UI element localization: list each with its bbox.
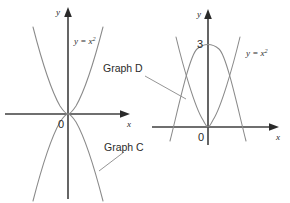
left-equation-label: y = x2 [73,35,96,46]
graph-d-leader-line [145,76,186,99]
left-equation-exponent: 2 [93,35,96,42]
right-equation-base: y = x [245,48,265,58]
right-equation-label: y = x2 [245,47,268,58]
left-origin-label: 0 [58,118,64,130]
graph-c-leader-line [99,152,124,171]
left-x-axis-arrowhead [120,110,130,118]
left-equation-base: y = x [73,36,93,46]
left-y-axis-label: y [55,7,60,17]
graph-d-callout-label: Graph D [103,62,143,74]
graph-c-callout-label: Graph C [104,141,144,153]
left-y-axis-arrowhead [64,7,72,17]
right-x-axis-arrowhead [269,123,279,131]
right-y-axis-label: y [196,9,201,19]
right-origin-label: 0 [198,131,204,143]
right-y-axis-arrowhead [204,9,212,19]
right-equation-exponent: 2 [265,47,268,54]
left-x-axis-label: x [126,119,131,129]
right-y-tick-label-3: 3 [197,38,203,50]
right-x-axis-label: x [275,132,280,142]
two-parabola-diagram: y x 0 y = x2 Graph C y x 0 3 [0,0,290,203]
graph-c-panel: y x 0 y = x2 Graph C [5,7,144,201]
